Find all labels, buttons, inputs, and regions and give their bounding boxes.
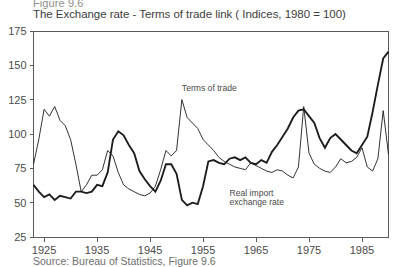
- x-tick-label: 1965: [244, 244, 268, 256]
- chart-annotation: exchange rate: [230, 197, 285, 207]
- x-tick-label: 1935: [85, 244, 109, 256]
- series-terms-of-trade: [34, 100, 389, 196]
- y-tick-label: 75: [14, 162, 26, 174]
- y-tick-label: 125: [8, 94, 26, 106]
- y-tick-label: 25: [14, 231, 26, 243]
- y-axis: 255075100125150175: [8, 25, 33, 243]
- y-tick-label: 50: [14, 197, 26, 209]
- chart-annotation: Terms of trade: [182, 83, 237, 93]
- annotation-group: Terms of tradeReal importexchange rate: [182, 83, 284, 207]
- y-tick-label: 175: [8, 25, 26, 37]
- x-axis: 1925193519451955196519751985: [32, 237, 374, 256]
- series-group: [34, 52, 389, 206]
- chart-annotation: Real import: [230, 188, 275, 198]
- y-tick-label: 100: [8, 128, 26, 140]
- x-tick-label: 1955: [191, 244, 215, 256]
- y-tick-label: 150: [8, 59, 26, 71]
- x-tick-label: 1925: [32, 244, 56, 256]
- x-tick-label: 1985: [350, 244, 374, 256]
- x-tick-label: 1945: [138, 244, 162, 256]
- series-real-import-exchange-rate: [34, 52, 389, 206]
- x-tick-label: 1975: [297, 244, 321, 256]
